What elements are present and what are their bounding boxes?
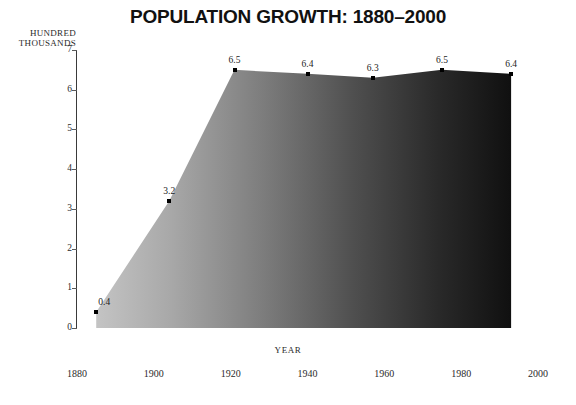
x-tick-label-1940: 1940: [288, 368, 328, 379]
data-point-label: 6.3: [367, 63, 379, 73]
data-point-marker: [233, 68, 237, 72]
data-point-label: 0.4: [98, 297, 110, 307]
plot-area: 0.43.26.56.46.36.56.4: [77, 50, 538, 328]
data-point-label: 3.2: [163, 186, 175, 196]
x-tick-label-1960: 1960: [364, 368, 404, 379]
x-tick-label-1980: 1980: [441, 368, 481, 379]
y-tick-label-5: 5: [50, 123, 72, 133]
y-tick-label-6: 6: [50, 84, 72, 94]
x-tick-label-1880: 1880: [57, 368, 97, 379]
y-axis-label-line-1: HUNDRED: [8, 28, 76, 38]
data-point-label: 6.5: [229, 55, 241, 65]
data-point-marker: [371, 76, 375, 80]
data-point-marker: [509, 72, 513, 76]
x-tick-label-1920: 1920: [211, 368, 251, 379]
y-tick-mark-0: [72, 328, 77, 329]
y-tick-label-4: 4: [50, 163, 72, 173]
y-tick-label-3: 3: [50, 203, 72, 213]
data-point-label: 6.4: [505, 59, 517, 69]
x-tick-label-1900: 1900: [134, 368, 174, 379]
y-tick-label-1: 1: [50, 282, 72, 292]
data-point-marker: [167, 199, 171, 203]
y-tick-label-0: 0: [50, 322, 72, 332]
x-axis-label: YEAR: [0, 345, 576, 355]
area-series-shape: [77, 50, 538, 328]
data-point-marker: [94, 310, 98, 314]
chart-title: POPULATION GROWTH: 1880–2000: [0, 6, 576, 28]
x-tick-label-2000: 2000: [518, 368, 558, 379]
data-point-label: 6.4: [302, 59, 314, 69]
data-point-marker: [440, 68, 444, 72]
y-tick-label-7: 7: [50, 44, 72, 54]
y-tick-label-2: 2: [50, 243, 72, 253]
data-point-label: 6.5: [436, 55, 448, 65]
data-point-marker: [306, 72, 310, 76]
